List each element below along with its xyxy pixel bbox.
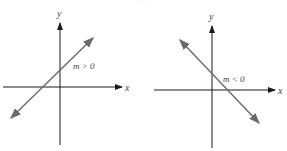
y-axis-label: y — [56, 8, 62, 19]
positive-slope-line — [11, 38, 93, 118]
y-axis-label: y — [208, 11, 214, 22]
x-axis-label: x — [277, 85, 283, 96]
negative-slope-line — [180, 40, 259, 123]
slope-label: m < 0 — [223, 74, 245, 84]
panel-negative-slope: x y m < 0 — [154, 11, 283, 148]
panel-positive-slope: x y m > 0 — [3, 8, 130, 145]
slope-diagram: x y m > 0 x y m < 0 — [0, 0, 287, 151]
x-axis-label: x — [124, 82, 130, 93]
slope-label: m > 0 — [73, 61, 95, 71]
